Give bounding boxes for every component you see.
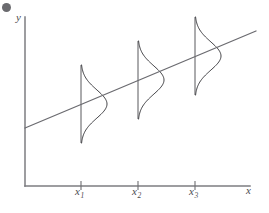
y-axis-label: y	[16, 12, 21, 23]
figure-canvas	[0, 0, 269, 213]
tick-label-x3: x3	[189, 186, 198, 197]
tick-label-x2: x2	[132, 186, 141, 197]
tick-label-x1: x1	[75, 186, 84, 197]
tick-label-subscript: 3	[194, 191, 198, 200]
regression-figure: y x x1x2x3	[0, 0, 269, 213]
regression-line	[25, 31, 256, 128]
tick-label-subscript: 1	[80, 191, 84, 200]
x-axis-label: x	[246, 185, 251, 196]
normal-distributions-group	[81, 17, 221, 143]
tick-label-subscript: 2	[137, 191, 141, 200]
normal-curve-x2	[139, 41, 164, 119]
normal-curve-x1	[82, 65, 107, 143]
normal-curve-x3	[196, 17, 221, 95]
